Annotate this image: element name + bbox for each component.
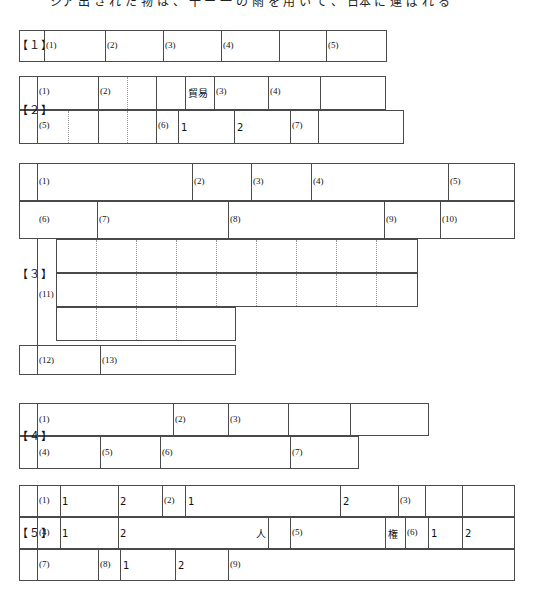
s2-label-2: (2) <box>100 86 111 96</box>
s3-label-11: (11) <box>39 289 54 299</box>
s5-r3-num1: 1 <box>123 560 129 571</box>
s2-label-3: (3) <box>216 86 227 96</box>
s4-label-4: (4) <box>39 447 50 457</box>
s3-label-6: (6) <box>39 214 50 224</box>
s2-label-5: (5) <box>39 120 50 130</box>
s3-label-9: (9) <box>386 214 397 224</box>
s3-label-2: (2) <box>194 176 205 186</box>
s2-label-1: (1) <box>39 86 50 96</box>
section-4-row1 <box>19 403 429 436</box>
section-4-row2 <box>19 436 359 469</box>
s1-label-1: (1) <box>46 40 57 50</box>
s2-label-7: (7) <box>292 120 303 130</box>
s1-label-4: (4) <box>223 40 234 50</box>
s3-label-13: (13) <box>102 355 117 365</box>
s5-label-9: (9) <box>230 559 241 569</box>
s4-label-1: (1) <box>39 414 50 424</box>
s2-label-4: (4) <box>270 86 281 96</box>
s3-label-12: (12) <box>39 355 54 365</box>
cropped-text-strip: ジア 出 さ れ た 物 は 、 十 ー 一 の 雨 を 用 い て 、 日本 … <box>0 0 534 14</box>
s5-label-8: (8) <box>100 559 111 569</box>
s5-label-2: (2) <box>164 495 175 505</box>
cropped-text: ジア 出 さ れ た 物 は 、 十 ー 一 の 雨 を 用 い て 、 日本 … <box>50 0 450 8</box>
s3-label-1: (1) <box>39 176 50 186</box>
s2-prefill-1: 1 <box>181 122 187 133</box>
section-4-number: 【４】 <box>17 430 53 442</box>
s5-r1-num1: 1 <box>62 496 68 507</box>
s2-label-6: (6) <box>158 120 169 130</box>
s2-prefill-boueki: 貿易 <box>188 88 208 99</box>
s1-label-2: (2) <box>107 40 118 50</box>
section-5-row3 <box>19 549 515 581</box>
s5-label-1: (1) <box>39 495 50 505</box>
s5-r1-num3: 1 <box>188 496 194 507</box>
section-3-row11-lower <box>56 307 236 341</box>
section-3-number: 【３】 <box>17 268 53 280</box>
s4-label-5: (5) <box>102 447 113 457</box>
s1-label-5: (5) <box>328 40 339 50</box>
s5-label-6: (6) <box>407 527 418 537</box>
s5-r1-num4: 2 <box>343 496 349 507</box>
section-5-row1 <box>19 485 515 517</box>
s4-label-2: (2) <box>175 414 186 424</box>
s5-label-3: (3) <box>400 495 411 505</box>
s3-label-10: (10) <box>442 214 457 224</box>
s3-label-5: (5) <box>450 176 461 186</box>
section-2-number: 【２】 <box>17 104 53 116</box>
s5-r2-num2: 2 <box>120 528 126 539</box>
s2-prefill-2: 2 <box>237 122 243 133</box>
s3-label-8: (8) <box>230 214 241 224</box>
s5-r2-num1: 1 <box>62 528 68 539</box>
s4-label-6: (6) <box>162 447 173 457</box>
s5-r2-hito: 人 <box>256 529 266 540</box>
section-2-row2 <box>19 110 404 144</box>
section-3-rowA <box>19 163 515 201</box>
section-3-row11-upper <box>56 239 418 273</box>
s5-r2-num4: 2 <box>465 528 471 539</box>
s5-r1-num2: 2 <box>120 496 126 507</box>
s3-label-4: (4) <box>313 176 324 186</box>
s1-label-3: (3) <box>165 40 176 50</box>
s5-label-5: (5) <box>292 527 303 537</box>
section-5-row2 <box>19 517 515 549</box>
section-3-row11-mid <box>56 273 418 307</box>
s3-label-7: (7) <box>99 214 110 224</box>
s5-label-4: (4) <box>39 527 50 537</box>
s5-label-7: (7) <box>39 559 50 569</box>
s3-label-3: (3) <box>253 176 264 186</box>
s4-label-3: (3) <box>230 414 241 424</box>
answer-sheet: ジア 出 さ れ た 物 は 、 十 ー 一 の 雨 を 用 い て 、 日本 … <box>0 0 534 605</box>
s4-label-7: (7) <box>292 447 303 457</box>
s5-r3-num2: 2 <box>178 560 184 571</box>
s5-r2-num3: 1 <box>431 528 437 539</box>
s5-r2-ken: 権 <box>388 529 398 540</box>
